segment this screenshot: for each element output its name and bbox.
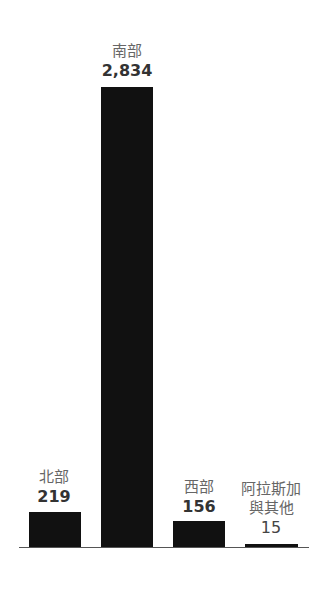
bar-chart: 北部 219 南部 2,834 西部 156 阿拉斯加 與其他 15 <box>0 0 329 610</box>
value-label: 2,834 <box>82 61 172 81</box>
value-label: 219 <box>9 487 99 507</box>
bar-south <box>101 87 153 547</box>
x-axis-line <box>19 547 309 548</box>
category-label: 南部 <box>82 42 172 61</box>
bar-north <box>29 512 81 547</box>
category-label-line1: 阿拉斯加 <box>226 480 316 499</box>
bar-west <box>173 521 225 547</box>
label-south: 南部 2,834 <box>82 42 172 81</box>
label-alaska-other: 阿拉斯加 與其他 15 <box>226 480 316 538</box>
category-label: 北部 <box>9 468 99 487</box>
label-north: 北部 219 <box>9 468 99 507</box>
value-label: 15 <box>226 518 316 538</box>
category-label-line2: 與其他 <box>226 499 316 518</box>
